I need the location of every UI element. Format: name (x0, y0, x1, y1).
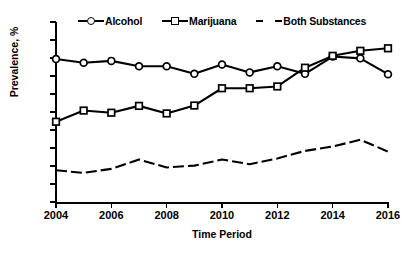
x-tick-label: 2014 (303, 210, 363, 221)
series-line (56, 140, 388, 173)
data-point (302, 64, 309, 71)
chart-figure: Alcohol Marijuana Both Substances Preval… (0, 0, 402, 253)
data-point (80, 107, 87, 114)
series-alcohol (53, 53, 392, 77)
data-point (108, 57, 115, 64)
data-point (246, 69, 253, 76)
data-point (53, 118, 60, 125)
data-point (246, 85, 253, 92)
x-tick-label: 2012 (247, 210, 307, 221)
x-axis-title: Time Period (56, 228, 388, 240)
x-tick (332, 202, 334, 208)
x-tick-label: 2006 (81, 210, 141, 221)
data-point (163, 110, 170, 117)
y-axis-title: Prevalence, % (8, 2, 20, 122)
x-tick (166, 202, 168, 208)
data-point (136, 103, 143, 110)
x-tick (387, 202, 389, 208)
data-point (80, 59, 87, 66)
plot-area: 05101520253035404550 2004200620082010201… (56, 22, 388, 202)
data-point (274, 63, 281, 70)
x-tick-label: 2008 (137, 210, 197, 221)
data-point (274, 83, 281, 90)
x-tick-label: 2010 (192, 210, 252, 221)
data-point (329, 53, 336, 60)
x-tick (55, 202, 57, 208)
data-point (219, 61, 226, 68)
x-tick-label: 2004 (26, 210, 86, 221)
data-point (219, 85, 226, 92)
data-point (385, 45, 392, 52)
data-point (108, 109, 115, 116)
data-point (385, 71, 392, 78)
data-point (136, 63, 143, 70)
x-tick (277, 202, 279, 208)
data-point (163, 63, 170, 70)
series-lines (56, 22, 388, 202)
data-point (357, 48, 364, 55)
data-point (191, 70, 198, 77)
data-point (357, 55, 364, 62)
x-tick (221, 202, 223, 208)
x-tick (111, 202, 113, 208)
data-point (191, 102, 198, 109)
data-point (53, 56, 60, 63)
series-both-substances (56, 140, 388, 173)
x-tick-label: 2016 (358, 210, 402, 221)
